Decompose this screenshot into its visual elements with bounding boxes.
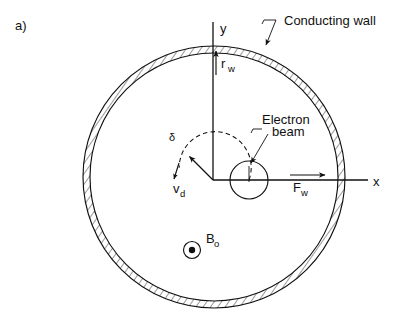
panel-label: a): [15, 18, 27, 33]
displacement-angle-label: δ: [169, 131, 175, 143]
physics-diagram: y x r w Conducting wall Electron beam: [0, 0, 401, 326]
drift-velocity-label: v: [173, 181, 180, 196]
figure-container: y x r w Conducting wall Electron beam: [0, 0, 401, 326]
x-axis-label: x: [373, 174, 380, 189]
wall-radius-label: r: [221, 56, 226, 71]
wall-radius-subscript: w: [227, 63, 235, 74]
wall-force-label: F: [293, 180, 301, 195]
wall-force-subscript: w: [300, 187, 308, 198]
y-axis-label: y: [220, 21, 227, 36]
electron-beam-label-line2: beam: [272, 124, 305, 139]
drift-velocity-subscript: d: [180, 188, 185, 199]
magnetic-field-subscript: o: [214, 238, 219, 249]
magnetic-field-dot-icon: [189, 247, 195, 253]
conducting-wall-label: Conducting wall: [284, 13, 376, 28]
